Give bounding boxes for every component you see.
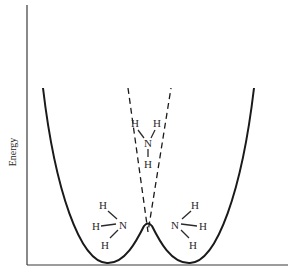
atom-h: H bbox=[199, 220, 207, 232]
double-well-curve bbox=[43, 88, 254, 263]
atom-h: H bbox=[144, 158, 152, 170]
atom-n: N bbox=[171, 219, 179, 231]
bond bbox=[101, 224, 116, 226]
bond bbox=[182, 211, 191, 219]
bond bbox=[110, 230, 118, 238]
right-pyramidal-nh3-molecule: H N H H bbox=[171, 199, 207, 251]
bond bbox=[108, 211, 117, 219]
planar-nh3-molecule: H H N H bbox=[131, 117, 161, 170]
y-axis-label: Energy bbox=[7, 138, 18, 167]
bond bbox=[181, 230, 189, 238]
left-pyramidal-nh3-molecule: H H N H bbox=[92, 199, 127, 251]
atom-h: H bbox=[153, 117, 161, 129]
atom-h: H bbox=[92, 220, 100, 232]
atom-h: H bbox=[101, 239, 109, 251]
atom-h: H bbox=[189, 239, 197, 251]
bond bbox=[181, 224, 197, 226]
atom-h: H bbox=[191, 199, 199, 211]
atom-n: N bbox=[144, 137, 152, 149]
energy-diagram: Energy H H N H H H N H H N H H bbox=[0, 0, 295, 271]
atom-h: H bbox=[99, 199, 107, 211]
atom-n: N bbox=[119, 219, 127, 231]
atom-h: H bbox=[131, 117, 139, 129]
